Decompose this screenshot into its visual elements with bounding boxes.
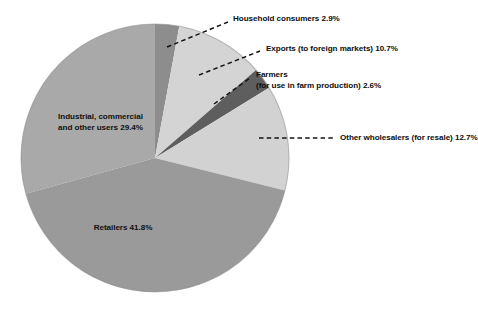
label-retailers: Retailers 41.8% [63,223,183,234]
label-farmers: Farmers (for use in farm production) 2.6… [256,70,381,91]
label-industrial-line2: and other users 29.4% [28,123,173,134]
label-household-consumers: Household consumers 2.9% [233,14,340,25]
label-industrial-commercial: Industrial, commercial and other users 2… [28,112,173,133]
label-farmers-line1: Farmers [256,70,381,81]
label-other-wholesalers: Other wholesalers (for resale) 12.7% [340,133,478,144]
label-industrial-line1: Industrial, commercial [28,112,173,123]
label-exports: Exports (to foreign markets) 10.7% [266,44,398,55]
label-farmers-line2: (for use in farm production) 2.6% [256,81,381,92]
